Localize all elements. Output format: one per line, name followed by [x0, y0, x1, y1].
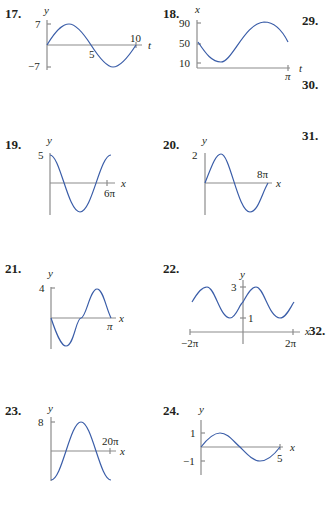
axis-label-x-24: x — [289, 441, 295, 453]
tick-22-xmax: 2π — [285, 337, 297, 349]
tick-20-x1: 8π — [257, 168, 269, 180]
tick-21-ymax: 4 — [39, 282, 45, 294]
tick-23-x1: 20π — [102, 435, 119, 447]
tick-18-y3: 10 — [179, 57, 191, 69]
axis-label-x-18: t — [299, 62, 303, 74]
graph-17 — [47, 20, 142, 70]
axis-label-x-22: x — [304, 325, 310, 337]
tick-22-xmin: −2π — [181, 337, 199, 349]
axis-label-x-17: t — [148, 39, 152, 51]
graph-22 — [190, 280, 300, 344]
axis-label-y-17: y — [43, 4, 49, 16]
graph-23 — [51, 417, 116, 481]
graph-19 — [50, 153, 115, 215]
tick-20-ymax: 2 — [192, 149, 198, 161]
axis-label-y-19: y — [46, 134, 52, 146]
axis-label-y-22: y — [239, 268, 245, 280]
graphs-canvas: y 7 −7 5 10 t x 90 50 10 π t y 5 6π x y … — [0, 0, 328, 510]
tick-18-x1: π — [285, 70, 291, 82]
axis-label-y-21: y — [47, 267, 53, 279]
tick-19-x1: 6π — [104, 187, 116, 199]
tick-24-ymax: 1 — [190, 427, 196, 439]
tick-24-x1: 5 — [277, 452, 283, 464]
axis-label-y-18: x — [194, 3, 200, 15]
tick-17-ymin: −7 — [28, 60, 40, 72]
tick-24-ymin: −1 — [183, 455, 195, 467]
axis-label-y-24: y — [198, 403, 204, 415]
tick-22-ymax: 3 — [231, 281, 237, 293]
axis-label-y-20: y — [201, 134, 207, 146]
axis-label-x-19: x — [120, 177, 126, 189]
graph-20 — [205, 153, 272, 215]
axis-label-x-23: x — [119, 445, 125, 457]
tick-19-ymax: 5 — [38, 149, 44, 161]
tick-18-y2: 50 — [179, 37, 191, 49]
graph-24 — [201, 420, 283, 475]
graph-21 — [51, 287, 116, 349]
tick-21-x1: π — [107, 320, 113, 332]
tick-17-ymax: 7 — [35, 18, 41, 30]
axis-label-x-21: x — [118, 312, 124, 324]
tick-18-y1: 90 — [179, 17, 191, 29]
tick-17-x1: 5 — [89, 48, 95, 60]
graph-18 — [197, 20, 290, 71]
tick-23-ymax: 8 — [38, 416, 44, 428]
tick-17-x2: 10 — [130, 32, 142, 44]
axis-label-x-20: x — [275, 177, 281, 189]
axis-label-y-23: y — [47, 402, 53, 414]
tick-22-ymid: 1 — [248, 312, 254, 324]
